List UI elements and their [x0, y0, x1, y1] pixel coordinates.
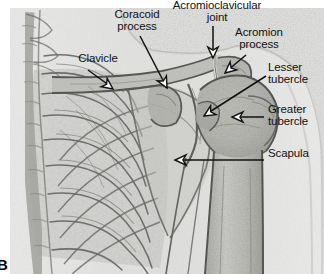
label-text: Lesser	[268, 61, 302, 73]
label-text: joint	[207, 11, 228, 23]
label-text: process	[117, 20, 157, 32]
label-acromioclavicular-joint: Acromioclavicularjoint	[166, 0, 268, 24]
label-text: tubercle	[268, 115, 308, 127]
label-text: Acromioclavicular	[173, 0, 261, 11]
label-greater-tubercle: Greatertubercle	[268, 103, 320, 128]
label-coracoid-process: Coracoidprocess	[106, 8, 168, 33]
label-scapula: Scapula	[268, 147, 322, 159]
label-text: Scapula	[268, 147, 309, 159]
label-acromion-process: Acromionprocess	[230, 26, 288, 51]
label-text: Coracoid	[114, 8, 159, 20]
label-text: Acromion	[235, 26, 283, 38]
label-lesser-tubercle: Lessertubercle	[268, 61, 320, 86]
label-text: Clavicle	[78, 52, 117, 64]
label-text: Greater	[268, 103, 306, 115]
label-clavicle: Clavicle	[72, 52, 124, 64]
label-text: tubercle	[268, 73, 308, 85]
figure-panel-letter: B	[0, 256, 8, 273]
label-text: process	[239, 38, 279, 50]
shoulder-radiograph-figure: CoracoidprocessAcromioclavicularjointAcr…	[0, 0, 324, 274]
